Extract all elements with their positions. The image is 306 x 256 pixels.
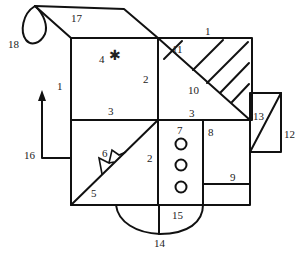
- label-7: 7: [177, 124, 183, 136]
- label-2-lower: 2: [147, 152, 153, 164]
- label-1-left: 1: [57, 80, 63, 92]
- label-1-top: 1: [205, 25, 211, 37]
- label-14: 14: [154, 237, 166, 249]
- arrow-head-icon: [38, 90, 46, 101]
- label-8: 8: [208, 126, 214, 138]
- complex-figure-diagram: ✱ 1 1 2 2 3 3 4 5 6 7 8 9 10 11 12 13 14…: [0, 0, 306, 256]
- roof: [35, 6, 158, 38]
- circle: [176, 182, 187, 193]
- label-3-left: 3: [108, 105, 114, 117]
- label-18: 18: [8, 38, 20, 50]
- label-2-upper: 2: [143, 73, 149, 85]
- label-12: 12: [284, 128, 295, 140]
- label-11: 11: [172, 43, 183, 55]
- label-17: 17: [71, 12, 83, 24]
- label-4: 4: [99, 53, 105, 65]
- label-13: 13: [253, 110, 265, 122]
- label-10: 10: [188, 84, 200, 96]
- label-5: 5: [91, 187, 97, 199]
- arrow-line: [42, 96, 71, 158]
- label-15: 15: [172, 209, 184, 221]
- circle: [176, 160, 187, 171]
- label-9: 9: [230, 171, 236, 183]
- circle: [176, 139, 187, 150]
- label-16: 16: [24, 149, 36, 161]
- star-symbol: ✱: [109, 47, 121, 63]
- label-3-right: 3: [189, 107, 195, 119]
- label-6: 6: [102, 147, 108, 159]
